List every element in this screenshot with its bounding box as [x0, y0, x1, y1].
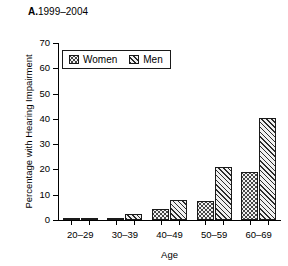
panel-letter: A.	[28, 6, 38, 17]
x-axis-tick	[268, 221, 269, 225]
bar-women-40-49	[152, 209, 169, 220]
plot-area: 010203040506070 20–2930–3940–4950–5960–6…	[58, 43, 280, 220]
y-axis-tick-label: 0	[24, 215, 50, 225]
y-axis-tick-label: 50	[24, 89, 50, 99]
y-axis-tick	[53, 144, 58, 145]
bar-women-20-29	[63, 218, 80, 220]
x-axis-title: Age	[58, 249, 281, 260]
x-axis-tick	[250, 221, 251, 225]
legend-swatch-men	[129, 55, 139, 64]
y-axis-title: Percentage with Hearing Impairment	[23, 32, 34, 232]
y-axis-tick	[53, 68, 58, 69]
x-axis-tick	[71, 221, 72, 225]
y-axis-tick	[53, 43, 58, 44]
x-axis-tick	[161, 221, 162, 225]
bar-women-50-59	[197, 201, 214, 220]
legend-entry-women: Women	[69, 54, 117, 65]
x-axis-tick	[116, 221, 117, 225]
x-axis-line	[58, 220, 281, 221]
legend-label-women: Women	[83, 54, 117, 65]
y-axis-line	[58, 43, 59, 221]
legend-swatch-women	[69, 55, 79, 64]
y-axis-tick	[53, 119, 58, 120]
x-axis-tick	[89, 221, 90, 225]
bar-women-30-39	[107, 218, 124, 220]
panel-title: A.1999–2004	[28, 6, 88, 18]
x-axis-tick	[205, 221, 206, 225]
chart-legend: WomenMen	[62, 50, 171, 69]
bar-men-20-29	[81, 218, 98, 220]
x-axis-tick	[134, 221, 135, 225]
y-axis-tick-label: 70	[24, 38, 50, 48]
bar-men-50-59	[215, 167, 232, 220]
bar-men-30-39	[125, 214, 142, 220]
legend-entry-men: Men	[129, 54, 162, 65]
x-axis-tick	[223, 221, 224, 225]
x-axis-tick-label: 60–69	[229, 229, 288, 240]
bar-men-40-49	[170, 200, 187, 220]
y-axis-tick	[53, 169, 58, 170]
legend-label-men: Men	[143, 54, 162, 65]
bar-men-60-69	[259, 118, 276, 220]
panel-title-text: 1999–2004	[38, 6, 88, 17]
y-axis-tick-label: 40	[24, 114, 50, 124]
y-axis-tick	[53, 195, 58, 196]
x-axis-tick	[179, 221, 180, 225]
y-axis-tick-label: 60	[24, 63, 50, 73]
bar-women-60-69	[241, 172, 258, 220]
y-axis-tick-label: 30	[24, 139, 50, 149]
y-axis-tick-label: 20	[24, 164, 50, 174]
y-axis-tick	[53, 94, 58, 95]
y-axis-tick	[53, 220, 58, 221]
chart-figure: A.1999–2004 Percentage with Hearing Impa…	[0, 0, 288, 266]
y-axis-tick-label: 10	[24, 190, 50, 200]
